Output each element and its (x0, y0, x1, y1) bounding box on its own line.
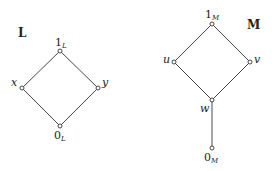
edge-1M-v (212, 24, 250, 62)
label-w: w (200, 102, 210, 115)
label-0L: 0L (54, 129, 66, 143)
edge-1L-y (60, 51, 98, 88)
label-1M: 1M (205, 8, 220, 22)
node-u (172, 60, 176, 64)
lattice-M-title: M (247, 18, 260, 32)
edge-x-0L (22, 88, 60, 126)
lattice-L-title: L (18, 26, 27, 40)
label-u: u (163, 53, 170, 66)
lattice-L: L 1L x y 0L (11, 26, 109, 143)
node-y (96, 86, 100, 90)
node-0M (210, 146, 214, 150)
node-0L (58, 124, 62, 128)
label-0M: 0M (204, 151, 219, 165)
node-1M (210, 22, 214, 26)
node-x (20, 86, 24, 90)
edge-v-w (212, 62, 250, 100)
lattice-diagrams: L 1L x y 0L M 1M u v w 0M (0, 0, 272, 171)
edge-1L-x (22, 51, 60, 88)
label-y: y (101, 76, 109, 89)
label-x: x (11, 76, 18, 89)
edge-1M-u (174, 24, 212, 62)
edge-u-w (174, 62, 212, 100)
label-1L: 1L (55, 36, 67, 50)
node-v (248, 60, 252, 64)
label-v: v (254, 53, 261, 66)
edge-y-0L (60, 88, 98, 126)
lattice-M: M 1M u v w 0M (163, 8, 261, 165)
node-w (210, 98, 214, 102)
